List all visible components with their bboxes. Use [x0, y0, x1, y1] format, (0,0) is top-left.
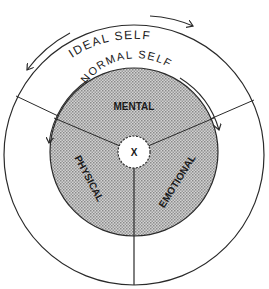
- ideal-self-arrow-left: [27, 33, 70, 70]
- sector-label-mental: MENTAL: [114, 101, 155, 112]
- self-concept-diagram: IDEAL SELF NORMAL SELF MENTAL PHYSICAL E…: [0, 0, 269, 289]
- ideal-self-arrow-right: [150, 16, 193, 26]
- center-label: X: [131, 147, 138, 158]
